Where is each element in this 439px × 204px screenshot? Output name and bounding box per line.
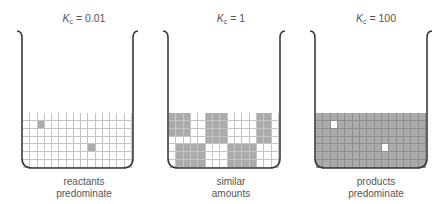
beaker-icon — [146, 0, 296, 204]
beaker-panel-kc-100: Kc = 100 products predominate — [293, 0, 439, 204]
caption: products predominate — [313, 176, 439, 200]
caption: similar amounts — [166, 176, 296, 200]
beaker-icon — [293, 0, 439, 204]
caption-line-1: reactants — [18, 176, 150, 188]
beaker-panel-kc-0-01: Kc = 0.01 reactants predominate — [0, 0, 150, 204]
beaker-icon — [0, 0, 150, 204]
caption-line-2: predominate — [18, 188, 150, 200]
caption: reactants predominate — [18, 176, 150, 200]
caption-line-1: similar — [166, 176, 296, 188]
caption-line-1: products — [313, 176, 439, 188]
caption-line-2: predominate — [313, 188, 439, 200]
beaker-panel-kc-1: Kc = 1 similar amounts — [146, 0, 296, 204]
caption-line-2: amounts — [166, 188, 296, 200]
